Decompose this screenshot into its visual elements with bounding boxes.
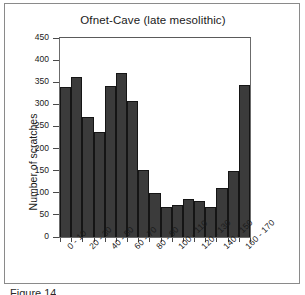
- y-axis-tick: [53, 60, 59, 61]
- y-axis-tick: [53, 214, 59, 215]
- y-axis-tick-label: 450: [5, 33, 49, 42]
- figure-screenshot: Ofnet-Cave (late mesolithic) Number of s…: [0, 0, 305, 295]
- bar: [239, 85, 250, 237]
- y-axis-tick: [53, 192, 59, 193]
- y-axis-tick-label: 300: [5, 99, 49, 108]
- bar: [71, 77, 82, 237]
- bar: [82, 117, 93, 237]
- y-axis-tick: [53, 38, 59, 39]
- y-axis-tick-label: 0: [5, 232, 49, 241]
- y-axis-tick: [53, 170, 59, 171]
- bar: [105, 86, 116, 237]
- y-axis-tick-label: 150: [5, 166, 49, 175]
- figure-frame: Ofnet-Cave (late mesolithic) Number of s…: [4, 3, 300, 284]
- y-axis-tick-label: 50: [5, 210, 49, 219]
- bar: [94, 132, 105, 237]
- bar: [127, 101, 138, 237]
- y-axis-tick-label: 250: [5, 121, 49, 130]
- y-axis-tick-label: 200: [5, 144, 49, 153]
- y-axis-tick-label: 400: [5, 55, 49, 64]
- figure-caption: Figure 14: [10, 287, 56, 295]
- plot-area: [59, 37, 251, 238]
- y-axis-tick: [53, 148, 59, 149]
- y-axis-tick-label: 350: [5, 77, 49, 86]
- y-axis-tick: [53, 126, 59, 127]
- y-axis-tick: [53, 104, 59, 105]
- bars-layer: [60, 38, 250, 237]
- y-axis-tick: [53, 82, 59, 83]
- chart-title: Ofnet-Cave (late mesolithic): [5, 14, 301, 26]
- y-axis-tick: [53, 237, 59, 238]
- bar: [60, 87, 71, 237]
- bar: [116, 73, 127, 238]
- y-axis-tick-label: 100: [5, 188, 49, 197]
- x-axis-tick: [60, 238, 61, 242]
